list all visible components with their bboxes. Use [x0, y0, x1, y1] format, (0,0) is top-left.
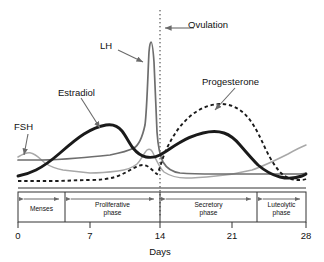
- phase-label-luteolytic-line1: Luteolytic: [268, 201, 296, 208]
- annotation-label-estradiol: Estradiol: [58, 88, 95, 98]
- phase-label-menses-line1: Menses: [30, 205, 53, 212]
- x-tick-label-21: 21: [222, 230, 242, 241]
- phase-label-luteolytic-line2: phase: [273, 209, 291, 216]
- hormone-cycle-chart: Ovulation LH Estradiol FSH Progesterone …: [0, 0, 324, 262]
- annotation-label-lh: LH: [100, 41, 112, 51]
- annotation-label-fsh: FSH: [14, 122, 33, 132]
- phase-label-luteolytic: Luteolytic phase: [257, 201, 306, 217]
- phase-label-secretory-line2: phase: [200, 209, 218, 216]
- phase-label-proliferative-line1: Proliferative: [95, 201, 130, 208]
- annotation-label-ovulation: Ovulation: [188, 20, 228, 30]
- x-axis-ticks: [18, 222, 306, 228]
- x-tick-label-0: 0: [8, 230, 28, 241]
- x-axis-title: Days: [130, 246, 190, 257]
- x-tick-label-14: 14: [150, 230, 170, 241]
- x-tick-label-7: 7: [80, 230, 100, 241]
- chart-canvas: [0, 0, 324, 262]
- estradiol-leader: [81, 98, 100, 128]
- phase-label-secretory-line1: Secretory: [194, 201, 222, 208]
- phase-label-proliferative-line2: phase: [104, 209, 122, 216]
- phase-label-secretory: Secretory phase: [160, 201, 257, 217]
- fsh-leader: [24, 134, 28, 155]
- phase-label-proliferative: Proliferative phase: [65, 201, 160, 217]
- progesterone-leader: [215, 88, 235, 110]
- phase-label-menses: Menses: [18, 205, 65, 213]
- lh-leader: [118, 50, 143, 62]
- x-tick-label-28: 28: [296, 230, 316, 241]
- annotation-label-progesterone: Progesterone: [202, 77, 259, 87]
